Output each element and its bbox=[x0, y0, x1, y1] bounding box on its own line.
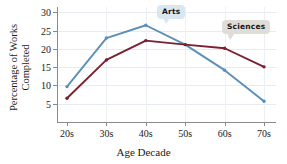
x-tick-label: 20s bbox=[60, 128, 74, 139]
data-point-sciences bbox=[262, 65, 265, 68]
y-tick-label: 10 bbox=[41, 80, 51, 91]
line-chart-figure: Percentage of Works Completed 5101520253… bbox=[0, 0, 287, 164]
data-point-arts bbox=[144, 24, 147, 27]
x-tick-label: 70s bbox=[257, 128, 271, 139]
x-tick-label: 30s bbox=[99, 128, 113, 139]
y-tick-label: 20 bbox=[41, 43, 51, 54]
data-point-arts bbox=[65, 85, 68, 88]
data-point-sciences bbox=[144, 39, 147, 42]
y-tick-label: 25 bbox=[41, 25, 51, 36]
x-tick-label: 40s bbox=[139, 128, 153, 139]
data-point-arts bbox=[223, 68, 226, 71]
data-point-sciences bbox=[105, 58, 108, 61]
x-tick-label: 50s bbox=[178, 128, 192, 139]
data-point-sciences bbox=[65, 97, 68, 100]
series-callout-sciences-tail bbox=[227, 33, 235, 40]
y-tick-label: 15 bbox=[41, 62, 51, 73]
data-point-sciences bbox=[223, 47, 226, 50]
y-axis-title-line1: Percentage of Works bbox=[8, 24, 19, 111]
y-tick-label: 30 bbox=[41, 7, 51, 18]
data-point-arts bbox=[105, 36, 108, 39]
data-point-sciences bbox=[184, 43, 187, 46]
y-tick-label: 5 bbox=[46, 98, 51, 109]
data-point-arts bbox=[262, 99, 265, 102]
x-axis-title: Age Decade bbox=[0, 146, 287, 158]
series-callout-arts-tail bbox=[163, 18, 170, 24]
series-callout-sciences: Sciences bbox=[222, 20, 270, 34]
series-callout-arts: Arts bbox=[157, 5, 185, 19]
y-axis-title: Percentage of Works Completed bbox=[8, 8, 31, 128]
y-axis-title-line2: Completed bbox=[19, 8, 31, 128]
x-tick-label: 60s bbox=[218, 128, 232, 139]
